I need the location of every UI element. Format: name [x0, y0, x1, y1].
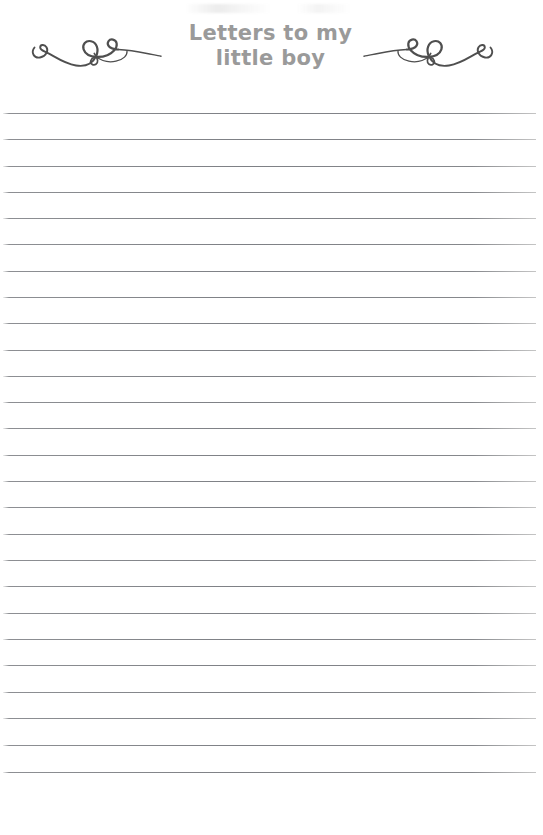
writing-rule-line	[3, 745, 536, 746]
writing-rule-line	[3, 166, 536, 167]
writing-rule-line	[3, 271, 536, 272]
writing-rule-line	[3, 613, 536, 614]
writing-rule-line	[3, 718, 536, 719]
writing-rule-line	[3, 402, 536, 403]
writing-rule-line	[3, 665, 536, 666]
writing-rule-line	[3, 297, 536, 298]
writing-rule-line	[3, 139, 536, 140]
writing-rule-line	[3, 586, 536, 587]
writing-rule-line	[3, 192, 536, 193]
writing-rule-line	[3, 692, 536, 693]
writing-rule-line	[3, 455, 536, 456]
writing-rule-line	[3, 560, 536, 561]
stationery-page: Letters to my little boy	[0, 0, 543, 835]
writing-rule-line	[3, 323, 536, 324]
writing-rule-line	[3, 639, 536, 640]
writing-rule-line	[3, 113, 536, 114]
writing-rule-line	[3, 218, 536, 219]
writing-rule-line	[3, 507, 536, 508]
writing-rule-line	[3, 376, 536, 377]
writing-rule-line	[3, 481, 536, 482]
writing-rule-line	[3, 534, 536, 535]
writing-rule-line	[3, 772, 536, 773]
ruled-lines-area	[0, 0, 543, 835]
writing-rule-line	[3, 350, 536, 351]
writing-rule-line	[3, 428, 536, 429]
writing-rule-line	[3, 244, 536, 245]
